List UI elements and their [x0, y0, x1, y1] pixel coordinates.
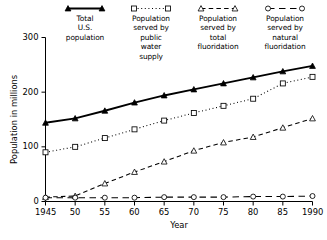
x-tick-label: 1990: [302, 208, 323, 217]
x-tick-label: 70: [188, 208, 199, 217]
marker-square-open-icon: [310, 74, 315, 79]
marker-circle-open-icon: [221, 195, 226, 200]
data-point: [191, 110, 196, 115]
marker-circle-open-icon: [191, 195, 196, 200]
marker-square-open-icon: [102, 136, 107, 141]
y-tick-label: 200: [23, 88, 39, 97]
data-point: [280, 81, 285, 86]
y-axis-title: Population in millions: [9, 75, 19, 164]
data-point: [221, 140, 227, 145]
y-tick-label: 300: [23, 33, 39, 42]
x-tick-label: 60: [129, 208, 140, 217]
marker-square-open-icon: [73, 144, 78, 149]
data-point: [221, 103, 226, 108]
series-2: [43, 116, 316, 200]
data-point: [280, 194, 285, 199]
data-point: [310, 116, 316, 121]
data-point: [191, 148, 197, 153]
data-point: [310, 194, 315, 199]
x-tick-label: 85: [277, 208, 288, 217]
marker-square-open-icon: [251, 96, 256, 101]
figure-root: TotalU.S.populationPopulationserved bypu…: [0, 0, 327, 240]
marker-square-open-icon: [43, 150, 48, 155]
marker-circle-open-icon: [251, 194, 256, 199]
x-axis-title: Year: [46, 220, 313, 230]
marker-circle-open-icon: [162, 195, 167, 200]
marker-triangle-open-icon: [310, 116, 316, 121]
plot-area: [0, 0, 327, 240]
data-point: [191, 195, 196, 200]
y-tick-label: 0: [34, 197, 39, 206]
marker-triangle-open-icon: [102, 181, 108, 186]
marker-square-open-icon: [132, 127, 137, 132]
data-point: [251, 96, 256, 101]
data-point: [162, 118, 167, 123]
marker-circle-open-icon: [280, 194, 285, 199]
data-point: [132, 195, 137, 200]
x-tick-label: 80: [248, 208, 259, 217]
series-line: [46, 66, 313, 123]
x-tick-label: 65: [159, 208, 170, 217]
axes: [42, 38, 313, 206]
marker-square-open-icon: [162, 118, 167, 123]
x-tick-label: 50: [70, 208, 81, 217]
series-line: [46, 196, 313, 198]
data-point: [162, 195, 167, 200]
data-series-layer: [43, 63, 316, 200]
data-point: [43, 150, 48, 155]
data-point: [132, 127, 137, 132]
marker-circle-open-icon: [310, 194, 315, 199]
marker-square-open-icon: [191, 110, 196, 115]
marker-circle-open-icon: [73, 195, 78, 200]
data-point: [251, 194, 256, 199]
data-point: [102, 195, 107, 200]
marker-triangle-open-icon: [191, 148, 197, 153]
x-tick-label: 1945: [35, 208, 56, 217]
x-tick-label: 75: [218, 208, 229, 217]
x-tick-label: 55: [99, 208, 110, 217]
marker-triangle-open-icon: [221, 140, 227, 145]
series-line: [46, 77, 313, 152]
marker-circle-open-icon: [132, 195, 137, 200]
data-point: [43, 195, 48, 200]
data-point: [221, 195, 226, 200]
data-point: [102, 136, 107, 141]
marker-circle-open-icon: [43, 195, 48, 200]
y-tick-label: 100: [23, 142, 39, 151]
series-1: [43, 74, 315, 154]
marker-circle-open-icon: [102, 195, 107, 200]
data-point: [73, 144, 78, 149]
data-point: [310, 74, 315, 79]
marker-square-open-icon: [221, 103, 226, 108]
series-line: [46, 118, 313, 197]
data-point: [73, 195, 78, 200]
data-point: [102, 181, 108, 186]
series-0: [43, 63, 316, 125]
series-3: [43, 194, 315, 201]
marker-square-open-icon: [280, 81, 285, 86]
